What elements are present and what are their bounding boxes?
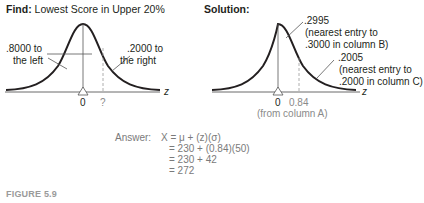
right-area-label-2: the right [120,55,156,66]
left-axis-label: z [164,86,169,97]
find-label: Find: [6,3,32,15]
answer-formula: X = μ + (z)(σ) [161,133,221,144]
answer-step-2: = 230 + 42 [169,155,217,166]
solution-label: Solution: [204,3,250,15]
tail-area-note-2: .2000 in column C) [339,76,423,87]
figure-caption: FIGURE 5.9 [6,189,57,199]
upper-area-value: .2995 [304,15,329,26]
right-area-label: .2000 to [127,43,163,54]
tail-area-value: .2005 [338,52,363,63]
left-mean-tick: 0 [80,97,86,108]
left-panel-title: Find: Lowest Score in Upper 20% [6,3,165,15]
left-area-label-2: the left [13,55,43,66]
upper-area-note-1: (nearest entry to [305,27,378,38]
z-value-tick: 0.84 [289,97,308,108]
answer-prefix: Answer: [115,133,151,144]
tail-area-note-1: (nearest entry to [339,64,412,75]
answer-step-1: = 230 + (0.84)(50) [169,144,250,155]
answer-result: = 272 [169,166,194,177]
right-mean-tick: 0 [275,97,281,108]
right-axis-label: z [362,86,367,97]
unknown-z-tick: ? [100,97,106,108]
find-description: Lowest Score in Upper 20% [32,3,165,15]
z-value-source: (from column A) [257,108,328,119]
right-panel-title: Solution: [204,3,250,15]
upper-area-note-2: .3000 in column B) [305,39,388,50]
left-area-label: .8000 to [6,43,42,54]
